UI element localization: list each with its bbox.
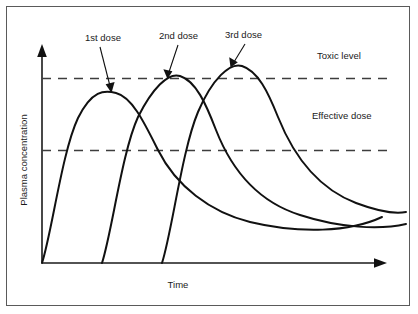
curve-2nd-dose — [102, 75, 406, 263]
label-effective-dose: Effective dose — [312, 110, 372, 121]
curve-3rd-dose — [162, 65, 406, 263]
callout-line-2nd-dose — [169, 45, 178, 72]
dose-curves-group — [42, 65, 406, 263]
plasma-concentration-chart: 1st dose 2nd dose 3rd dose Toxic level E… — [0, 0, 418, 314]
figure-root: 1st dose 2nd dose 3rd dose Toxic level E… — [0, 0, 418, 314]
callout-line-3rd-dose — [234, 44, 245, 62]
y-axis-arrowhead-icon — [37, 44, 47, 57]
label-2nd-dose: 2nd dose — [159, 30, 198, 41]
label-3rd-dose: 3rd dose — [225, 29, 262, 40]
label-1st-dose: 1st dose — [85, 32, 121, 43]
x-axis-title: Time — [168, 279, 189, 290]
y-axis-title: Plasma concentration — [18, 114, 29, 205]
axes-group — [37, 44, 387, 268]
x-axis-arrowhead-icon — [374, 258, 387, 268]
callout-line-1st-dose — [100, 47, 110, 86]
labels-group: 1st dose 2nd dose 3rd dose Toxic level E… — [18, 29, 372, 290]
callout-arrowhead-2nd-dose-icon — [163, 69, 172, 79]
label-toxic-level: Toxic level — [317, 50, 361, 61]
callout-arrows-group — [100, 44, 245, 93]
